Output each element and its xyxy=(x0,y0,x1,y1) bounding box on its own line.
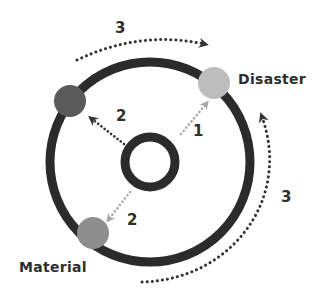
node-top-left xyxy=(54,85,86,117)
label-disaster: Disaster xyxy=(238,71,306,87)
label-material: Material xyxy=(19,259,87,275)
cycle-diagram: Disaster Material 1 2 2 3 3 xyxy=(0,0,322,303)
label-outer-arrow-top: 3 xyxy=(115,19,125,37)
label-inner-arrow-2-top: 2 xyxy=(116,107,126,125)
inner-ring xyxy=(125,137,175,187)
label-outer-arrow-right: 3 xyxy=(281,188,291,206)
node-material xyxy=(77,217,109,249)
label-inner-arrow-1: 1 xyxy=(193,122,203,140)
label-inner-arrow-2-bottom: 2 xyxy=(127,211,137,229)
outer-arrow-top xyxy=(77,40,204,60)
node-disaster xyxy=(198,67,230,99)
